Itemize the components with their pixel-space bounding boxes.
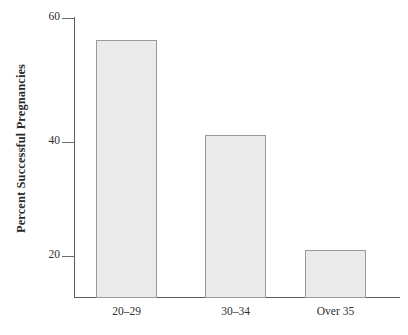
y-tick-mark-40 — [62, 142, 75, 143]
bar-30-34 — [205, 135, 266, 298]
y-tick-label-20: 20 — [24, 248, 60, 260]
bar-over-35 — [305, 250, 366, 298]
x-axis-label-30-34: 30–34 — [185, 305, 286, 317]
x-axis-label-over-35: Over 35 — [285, 305, 386, 317]
y-tick-label-60: 60 — [24, 10, 60, 22]
x-axis-label-20-29: 20–29 — [76, 305, 177, 317]
y-tick-mark-20 — [62, 256, 75, 257]
y-tick-label-40: 40 — [24, 134, 60, 146]
bar-20-29 — [96, 40, 157, 298]
y-tick-mark-60 — [62, 18, 75, 19]
bar-chart: Percent Successful Pregnancies 60 40 20 … — [0, 0, 408, 335]
